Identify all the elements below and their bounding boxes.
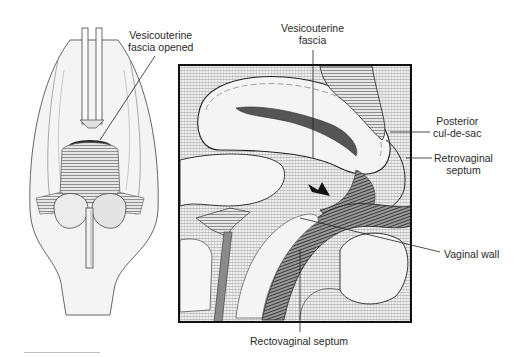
label-vesicouterine-fascia: Vesicouterine fascia <box>281 22 344 46</box>
label-posterior-cul-de-sac: Posterior cul-de-sac <box>433 115 481 139</box>
label-vesicouterine-fascia-opened: Vesicouterine fascia opened <box>128 29 193 53</box>
label-line: Rectovaginal septum <box>250 335 348 347</box>
label-rectovaginal-septum: Rectovaginal septum <box>250 335 348 347</box>
label-vaginal-wall: Vaginal wall <box>444 248 499 260</box>
right-cross-section <box>179 65 411 322</box>
label-line: septum <box>434 164 493 176</box>
left-surgical-view <box>30 28 158 315</box>
footnote-rule <box>24 352 100 353</box>
label-line: Vesicouterine <box>128 29 193 41</box>
label-retrovaginal-septum: Retrovaginal septum <box>434 152 493 176</box>
label-line: Retrovaginal <box>434 152 493 164</box>
anatomical-figure: Vesicouterine fascia opened Vesicouterin… <box>0 0 520 357</box>
label-line: fascia opened <box>128 41 193 53</box>
label-line: cul-de-sac <box>433 127 481 139</box>
label-line: fascia <box>281 34 344 46</box>
label-line: Vaginal wall <box>444 248 499 260</box>
illustration-artwork <box>0 0 520 357</box>
label-line: Posterior <box>433 115 481 127</box>
label-line: Vesicouterine <box>281 22 344 34</box>
